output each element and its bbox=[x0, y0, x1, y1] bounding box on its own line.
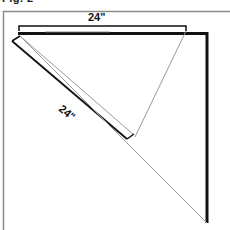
diagonal-dimension-label: 24" bbox=[57, 102, 78, 122]
outer-frame bbox=[3, 11, 230, 230]
diagram-drawing: 24" 24" bbox=[0, 0, 230, 230]
top-dimension-bracket bbox=[19, 26, 186, 31]
figure-canvas: Fig. 2 24" 24" bbox=[0, 0, 230, 230]
diagonal-board bbox=[12, 36, 134, 139]
top-dimension-label: 24" bbox=[88, 11, 105, 23]
